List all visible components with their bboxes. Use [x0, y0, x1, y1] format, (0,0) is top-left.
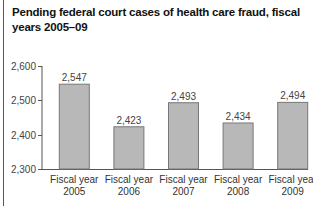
bar: [223, 123, 253, 169]
x-tick-label: 2008: [227, 186, 250, 197]
value-label: 2,547: [62, 72, 87, 83]
x-tick-label: 2005: [63, 186, 86, 197]
x-tick-label: 2007: [172, 186, 195, 197]
bar: [59, 84, 89, 169]
y-tick-label: 2,500: [11, 95, 36, 106]
x-tick-label: Fiscal year: [50, 174, 99, 185]
y-tick-label: 2,600: [11, 61, 36, 72]
bar-chart: 2,3002,4002,5002,6002,547Fiscal year2005…: [0, 0, 313, 206]
bar: [278, 102, 308, 169]
x-tick-label: Fiscal year: [105, 174, 154, 185]
value-label: 2,434: [226, 111, 251, 122]
bar: [169, 103, 199, 169]
y-tick-label: 2,400: [11, 130, 36, 141]
x-tick-label: 2006: [118, 186, 141, 197]
x-tick-label: 2009: [282, 186, 305, 197]
value-label: 2,423: [116, 115, 141, 126]
y-tick-label: 2,300: [11, 164, 36, 175]
x-tick-label: Fiscal year: [269, 174, 313, 185]
x-tick-label: Fiscal year: [159, 174, 208, 185]
bar: [114, 127, 144, 169]
x-tick-label: Fiscal year: [214, 174, 263, 185]
value-label: 2,494: [280, 90, 305, 101]
value-label: 2,493: [171, 91, 196, 102]
